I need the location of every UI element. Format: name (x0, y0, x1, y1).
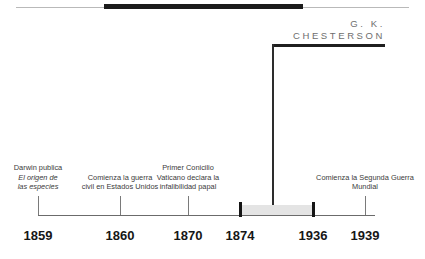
year-label-1860: 1860 (97, 228, 143, 243)
year-label-1870: 1870 (165, 228, 211, 243)
event-label-line: Primer Conicilio (136, 163, 240, 173)
event-label-second-world-war-begins: Comienza la Segunda GuerraMundial (313, 173, 417, 192)
top-rule-thick (104, 4, 303, 9)
period-tick-1936 (312, 202, 315, 217)
period-bracket-top (272, 44, 385, 47)
period-tick-1874 (239, 202, 242, 217)
timeline-heading: G. K. CHESTERSON (233, 18, 385, 41)
event-label-line: Darwin publica (0, 163, 90, 173)
year-label-1939: 1939 (342, 228, 388, 243)
timeline-figure: G. K. CHESTERSON Darwin publicaEl origen… (0, 0, 425, 259)
leader-line-second-world-war-begins (365, 196, 366, 215)
leader-line-darwin-origin-of-species (38, 196, 39, 215)
timeline-axis (38, 215, 375, 216)
period-bracket-stem (272, 44, 274, 216)
leader-line-first-vatican-council (188, 196, 189, 215)
event-label-line: infalibilidad papal (136, 182, 240, 192)
event-label-line: Vaticano declara la (136, 173, 240, 183)
leader-line-us-civil-war-begins (120, 196, 121, 215)
year-label-1936: 1936 (290, 228, 336, 243)
period-band-chesterson-lifespan (240, 205, 313, 215)
year-label-1874: 1874 (217, 228, 263, 243)
event-label-first-vatican-council: Primer ConicilioVaticano declara lainfal… (136, 163, 240, 192)
year-label-1859: 1859 (15, 228, 61, 243)
event-label-line: Mundial (313, 182, 417, 192)
event-label-line: Comienza la Segunda Guerra (313, 173, 417, 183)
